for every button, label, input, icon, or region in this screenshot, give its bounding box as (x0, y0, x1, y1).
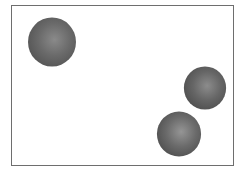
sphere-3 (156, 111, 202, 157)
sphere-2 (183, 66, 227, 110)
sphere-1 (27, 17, 77, 67)
